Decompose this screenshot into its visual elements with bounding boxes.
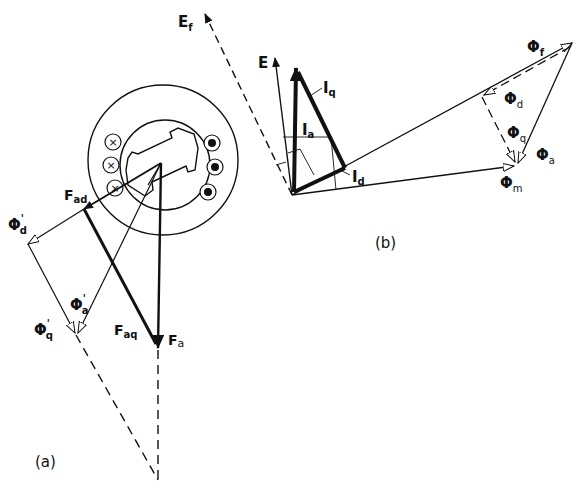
label-phi-d: Φd [504, 90, 523, 110]
conductor-dot-1 [204, 135, 220, 151]
f-a-vector [158, 163, 161, 348]
label-phi-a: Φa [536, 146, 555, 166]
label-phi-d-prime: Φ'd [8, 213, 27, 236]
leader-i-d [340, 170, 350, 175]
machine-cross-section: × × × [88, 85, 238, 235]
construction-line-5 [276, 162, 286, 165]
label-i-q: Iq [323, 79, 336, 98]
svg-text:×: × [106, 159, 115, 172]
label-e: E [258, 54, 268, 72]
panel-b: Ef E Iq Ia Id Φf Φd Φq Φa Φm (b) [178, 13, 572, 252]
phi-d-prime-vector [28, 209, 84, 244]
phi-q-prime-vector [28, 244, 75, 333]
conductor-cross-2: × [103, 157, 119, 173]
conductor-dot-2 [207, 159, 223, 175]
label-phi-q-prime: Φ'q [34, 318, 53, 341]
i-q-vector [298, 72, 345, 168]
label-f-aq: Faq [114, 322, 137, 340]
label-phi-m: Φm [500, 174, 523, 194]
rotor-shape [126, 128, 198, 196]
stator-inner-circle [120, 120, 210, 210]
panel-a: × × × [8, 85, 238, 480]
leader-i-q [310, 88, 322, 96]
label-e-f: Ef [178, 13, 193, 33]
label-f-a: Fa [168, 332, 184, 350]
svg-text:×: × [108, 136, 117, 149]
conductor-cross-1: × [105, 134, 121, 150]
caption-a: (a) [35, 453, 56, 471]
e-vector [275, 58, 292, 195]
construction-line-4 [300, 149, 314, 175]
phasor-diagram-figure: × × × [0, 0, 577, 490]
label-f-ad: Fad [64, 187, 87, 205]
i-a-vector [294, 68, 296, 192]
label-phi-q: Φq [507, 124, 526, 144]
label-i-a: Ia [302, 121, 314, 140]
label-i-d: Id [352, 168, 365, 187]
conductor-dot-3 [200, 184, 216, 200]
phi-m-vector [292, 166, 514, 195]
label-phi-a-prime: Φ'a [70, 293, 89, 316]
label-phi-f: Φf [527, 38, 545, 58]
caption-b: (b) [375, 234, 396, 252]
phi-f-vector [292, 43, 572, 195]
dashed-line-left [76, 335, 158, 480]
